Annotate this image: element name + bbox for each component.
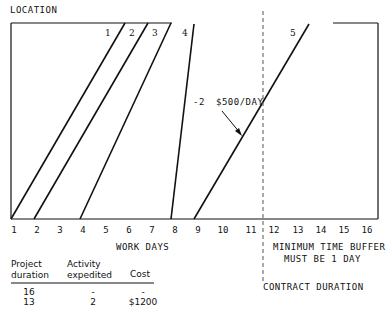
x-tick: 4 — [80, 225, 85, 235]
x-tick: 16 — [362, 225, 373, 235]
x-tick: 10 — [218, 225, 229, 235]
x-tick: 14 — [316, 225, 327, 235]
line-label-2: 2 — [129, 28, 135, 38]
activity-line-4 — [171, 24, 194, 219]
x-tick: 13 — [293, 225, 304, 235]
table-cell: $1200 — [129, 297, 158, 307]
activity-line-1 — [11, 23, 125, 219]
buffer-note-line2: MUST BE 1 DAY — [284, 254, 361, 264]
x-tick: 11 — [246, 225, 257, 235]
x-tick: 15 — [339, 225, 350, 235]
chart-canvas — [0, 0, 391, 317]
x-tick: 1 — [11, 225, 16, 235]
x-tick: 6 — [126, 225, 131, 235]
y-axis-label: LOCATION — [10, 5, 57, 15]
x-tick: 9 — [195, 225, 200, 235]
table-cell: - — [141, 287, 144, 297]
line-label-1: 1 — [105, 28, 111, 38]
line-label-5: 5 — [290, 28, 296, 38]
buffer-note-line1: MINIMUM TIME BUFFER — [273, 242, 385, 252]
activity-line-3 — [80, 23, 171, 219]
x-tick: 5 — [103, 225, 108, 235]
x-tick: 2 — [34, 225, 39, 235]
table-cell: - — [91, 287, 94, 297]
table-cell: 16 — [23, 287, 34, 297]
table-cell: 2 — [90, 297, 96, 307]
x-tick: 12 — [269, 225, 280, 235]
col-header-activity: Activity expedited — [67, 259, 112, 281]
line-label-4: 4 — [182, 28, 188, 38]
rate-label: $500/DAY — [216, 97, 263, 107]
col-header-cost: Cost — [130, 269, 150, 280]
table-cell: 13 — [23, 297, 34, 307]
contract-duration-label: CONTRACT DURATION — [263, 282, 364, 292]
activity-line-2 — [34, 23, 148, 219]
col-header-duration: Project duration — [11, 259, 49, 281]
x-tick: 7 — [149, 225, 154, 235]
expedite-label: -2 — [193, 97, 205, 107]
x-tick: 8 — [172, 225, 177, 235]
arrow-head-icon — [235, 128, 242, 136]
x-axis-label: WORK DAYS — [116, 242, 169, 252]
line-label-3: 3 — [152, 28, 158, 38]
x-tick: 3 — [57, 225, 62, 235]
activity-line-5 — [194, 24, 309, 219]
